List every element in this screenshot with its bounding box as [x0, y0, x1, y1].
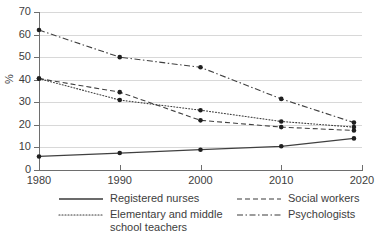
legend: Registered nursesElementary and middlesc… — [58, 192, 370, 240]
data-point — [352, 120, 357, 125]
data-point — [279, 119, 284, 124]
legend-item-social-workers[interactable]: Social workers — [236, 192, 376, 205]
data-point — [279, 125, 284, 130]
legend-swatch-dashed-icon — [236, 192, 282, 205]
data-point — [117, 98, 122, 103]
data-point — [117, 90, 122, 95]
legend-label-psychologists: Psychologists — [288, 208, 376, 221]
series-line-psychologists — [39, 30, 354, 123]
data-point — [117, 151, 122, 156]
legend-label-line2: school teachers — [110, 221, 233, 234]
legend-label-social-workers: Social workers — [288, 192, 376, 205]
legend-swatch-dashdot-icon — [236, 208, 282, 221]
data-point — [352, 136, 357, 141]
data-point — [198, 65, 203, 70]
data-point — [279, 144, 284, 149]
data-point — [37, 28, 42, 33]
data-point — [198, 118, 203, 123]
series-line-social-workers — [39, 79, 354, 131]
legend-item-psychologists[interactable]: Psychologists — [236, 208, 376, 221]
legend-item-elementary-middle-school-teachers[interactable]: Elementary and middleschool teachers — [58, 208, 233, 234]
legend-label-registered-nurses: Registered nurses — [110, 192, 233, 205]
data-point — [279, 97, 284, 102]
series-line-registered-nurses — [39, 138, 354, 156]
legend-column-right: Social workersPsychologists — [236, 192, 376, 224]
legend-label-elementary-middle-school-teachers: Elementary and middleschool teachers — [110, 208, 233, 234]
legend-item-registered-nurses[interactable]: Registered nurses — [58, 192, 233, 205]
legend-swatch-dotted-icon — [58, 208, 104, 221]
data-point — [198, 108, 203, 113]
legend-column-left: Registered nursesElementary and middlesc… — [58, 192, 233, 237]
data-point — [198, 147, 203, 152]
line-chart: 010203040506070 19801990200020102020 % R… — [0, 0, 376, 242]
data-point — [117, 55, 122, 60]
legend-swatch-solid-icon — [58, 192, 104, 205]
data-point — [37, 154, 42, 159]
data-point — [37, 76, 42, 81]
data-point — [352, 125, 357, 130]
series-line-elementary-and-middle-school-teachers — [39, 79, 354, 128]
